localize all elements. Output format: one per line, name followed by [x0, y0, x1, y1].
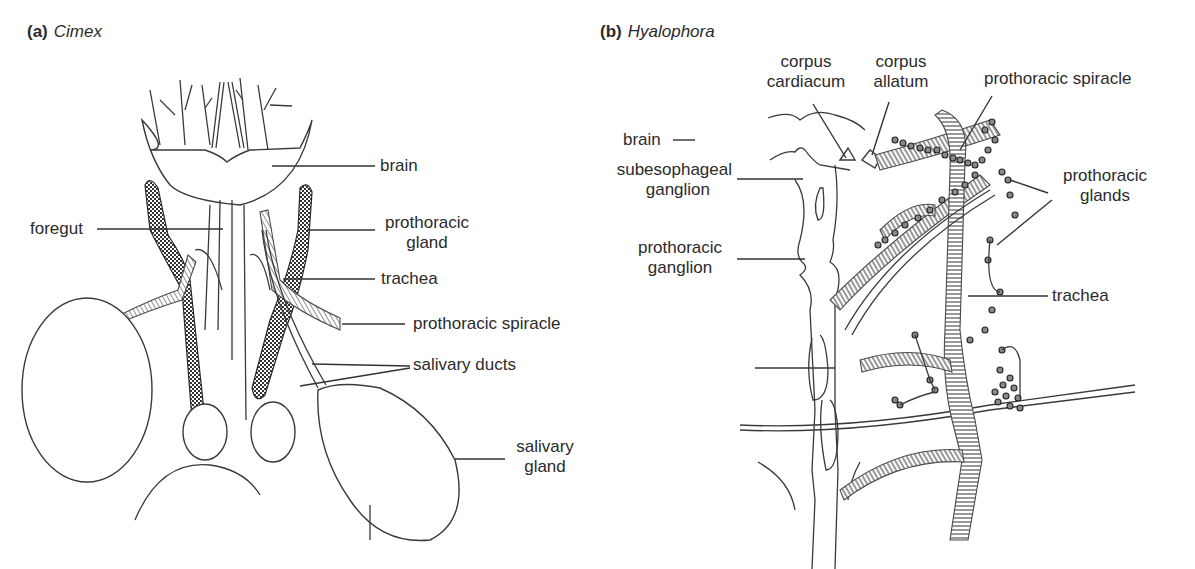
salivary-gland-right [318, 384, 459, 540]
accessory-gland-left [183, 404, 227, 460]
label-prothoracic-gland: prothoracic gland [378, 213, 476, 253]
trachea-lateral-2 [840, 450, 964, 501]
panel-b-hyalophora: (b)Hyalophora [590, 0, 1195, 569]
label-subesophageal-ganglion: subesophageal ganglion [582, 160, 732, 200]
head-nerves [150, 78, 292, 150]
corpus-cardiacum-shape [840, 148, 855, 160]
label-trachea: trachea [1052, 286, 1109, 306]
trachea-oblique-1 [830, 175, 990, 310]
label-prothoracic-ganglion: prothoracic ganglion [626, 238, 734, 278]
cimex-anatomy-drawing [0, 0, 590, 569]
label-corpus-allatum: corpus allatum [866, 52, 936, 92]
label-brain: brain [380, 156, 418, 176]
label-corpus-cardiacum: corpus cardiacum [756, 52, 856, 92]
accessory-gland-right [251, 402, 295, 462]
label-salivary-ducts: salivary ducts [413, 355, 516, 375]
salivary-gland-left [22, 298, 152, 482]
brain-shape [142, 120, 312, 205]
label-brain: brain [623, 130, 661, 150]
label-prothoracic-spiracle: prothoracic spiracle [984, 69, 1131, 89]
label-prothoracic-spiracle: prothoracic spiracle [413, 314, 560, 334]
label-prothoracic-glands: prothoracic glands [1051, 166, 1159, 206]
label-foregut: foregut [30, 219, 83, 239]
trachea-lateral-1 [860, 353, 952, 373]
label-trachea: trachea [381, 269, 438, 289]
label-salivary-gland: salivary gland [505, 437, 585, 477]
panel-a-cimex: (a)Cimex [0, 0, 590, 569]
